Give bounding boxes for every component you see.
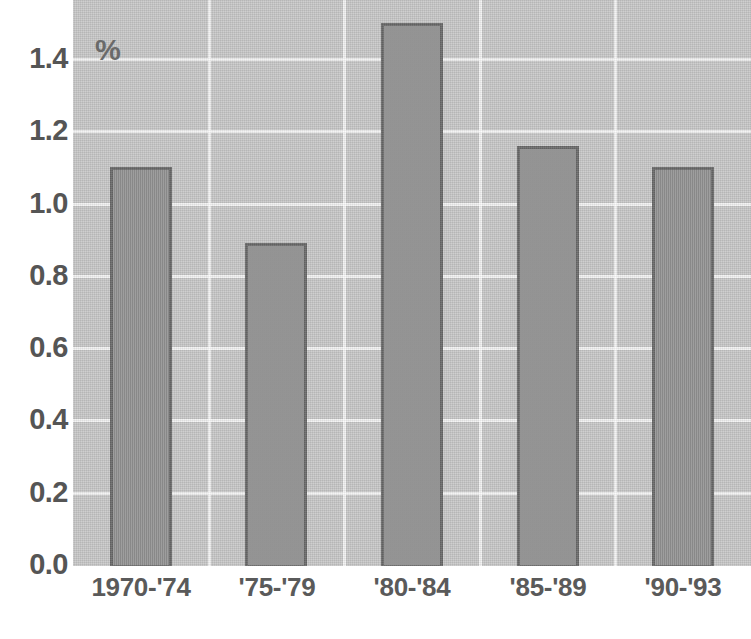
y-axis-tick-label: 0.0: [2, 550, 68, 579]
plot-area: %: [73, 0, 751, 566]
x-axis-tick-label: 1970-'74: [73, 574, 209, 600]
y-axis-tick-label: 0.4: [2, 405, 68, 434]
x-axis-tick-label: '75-'79: [209, 574, 345, 600]
bar: [381, 23, 443, 566]
bar: [110, 167, 172, 566]
gridline-vertical: [208, 0, 211, 566]
x-axis: 1970-'74'75-'79'80-'84'85-'89'90-'93: [73, 574, 751, 624]
y-axis-tick-label: 0.2: [2, 478, 68, 507]
y-axis-tick-label: 1.4: [2, 44, 68, 73]
bar: [517, 146, 579, 566]
y-axis-tick-label: 0.8: [2, 261, 68, 290]
x-axis-tick-label: '85-'89: [480, 574, 616, 600]
gridline-vertical: [614, 0, 617, 566]
gridline-vertical: [479, 0, 482, 566]
gridline-vertical: [343, 0, 346, 566]
y-axis-tick-label: 0.6: [2, 333, 68, 362]
y-axis-tick-label: 1.0: [2, 189, 68, 218]
unit-label: %: [95, 36, 121, 65]
bar: [245, 243, 307, 566]
bar-chart-figure: % 1.41.21.00.80.60.40.20.0 1970-'74'75-'…: [0, 0, 751, 639]
y-axis-tick-label: 1.2: [2, 116, 68, 145]
y-axis: 1.41.21.00.80.60.40.20.0: [0, 0, 68, 639]
bar: [652, 167, 714, 566]
x-axis-tick-label: '80-'84: [344, 574, 480, 600]
x-axis-tick-label: '90-'93: [615, 574, 751, 600]
